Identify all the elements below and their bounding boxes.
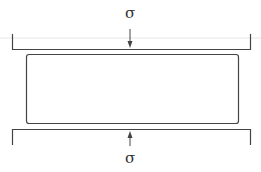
compression-diagram: σ σ xyxy=(0,0,261,172)
specimen-block xyxy=(27,55,239,124)
top-stress-label: σ xyxy=(125,4,135,22)
bottom-stress-label: σ xyxy=(125,149,135,167)
bottom-arrow-icon xyxy=(128,131,133,146)
